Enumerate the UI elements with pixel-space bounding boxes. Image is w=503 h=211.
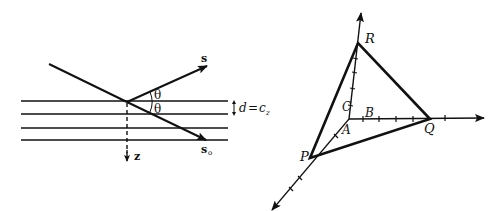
bragg-diagram: s s o θ θ z d = c z [21, 52, 270, 163]
lattice-planes [21, 101, 228, 140]
origin-a-label: A [341, 123, 351, 137]
figure-canvas: s s o θ θ z d = c z [0, 0, 503, 211]
incident-ray [49, 64, 127, 102]
theta-upper-label: θ [154, 88, 161, 102]
depth-axis-label: z [134, 150, 140, 163]
reflected-vector-arrow [127, 66, 207, 102]
vertex-p-label: P [299, 149, 309, 164]
z-tick-3 [352, 72, 357, 73]
z-tick-4 [353, 58, 358, 59]
point-c-label: C [342, 100, 351, 114]
z-tick-2 [350, 88, 355, 89]
vertex-q-label: Q [424, 121, 435, 136]
point-b-label: B [364, 106, 374, 120]
reflected-vector-label: s [201, 52, 207, 65]
intercept-diagram: R C B A Q P [272, 13, 484, 210]
y-axis [272, 119, 349, 210]
spacing-d-label: d [239, 101, 247, 115]
incident-vector-subscript: o [208, 149, 212, 157]
spacing-c-label: c [259, 101, 266, 115]
axis-tick-marks [289, 58, 445, 191]
spacing-equals: = [248, 101, 258, 115]
spacing-c-subscript: z [265, 109, 270, 117]
plane-triangle-pqr [310, 43, 430, 158]
incident-vector-arrow [127, 102, 206, 140]
spacing-indicator-bottom-arrow [232, 112, 236, 116]
spacing-indicator-top-arrow [232, 100, 236, 104]
vertex-r-label: R [364, 31, 375, 46]
theta-lower-label: θ [154, 102, 161, 116]
incident-vector-label: s [201, 143, 207, 156]
theta-angle-arc [150, 92, 152, 112]
